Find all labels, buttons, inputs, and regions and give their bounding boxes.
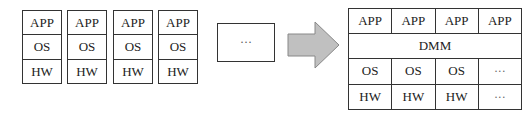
app-layer: APP <box>23 11 61 35</box>
hw-ellipsis-cell: ··· <box>479 85 521 110</box>
os-ellipsis-cell: ··· <box>479 59 521 83</box>
hw-cell: HW <box>392 85 435 110</box>
app-cell: APP <box>392 9 435 33</box>
hw-layer: HW <box>68 60 106 84</box>
more-machines-box: ··· <box>217 23 275 62</box>
app-cell: APP <box>349 9 392 33</box>
os-cell: OS <box>392 59 435 83</box>
app-cell: APP <box>479 9 521 33</box>
right-arrow-icon <box>287 21 340 69</box>
os-row: OS OS OS ··· <box>349 59 521 84</box>
app-layer: APP <box>159 11 197 35</box>
app-layer: APP <box>114 11 152 35</box>
dmm-cell: DMM <box>349 34 521 58</box>
machine-stack-3: APP OS HW <box>113 10 153 84</box>
os-cell: OS <box>349 59 392 83</box>
hw-cell: HW <box>436 85 479 110</box>
hw-layer: HW <box>114 60 152 84</box>
dmm-architecture-table: APP APP APP APP DMM OS OS OS ··· HW HW H… <box>348 8 522 110</box>
app-layer: APP <box>68 11 106 35</box>
ellipsis-label: ··· <box>240 35 252 50</box>
hw-row: HW HW HW ··· <box>349 85 521 110</box>
machine-stack-2: APP OS HW <box>67 10 107 84</box>
app-cell: APP <box>436 9 479 33</box>
hw-layer: HW <box>23 60 61 84</box>
os-layer: OS <box>159 35 197 59</box>
app-row: APP APP APP APP <box>349 9 521 34</box>
os-layer: OS <box>68 35 106 59</box>
machine-stack-4: APP OS HW <box>158 10 198 84</box>
os-cell: OS <box>436 59 479 83</box>
os-layer: OS <box>23 35 61 59</box>
hw-cell: HW <box>349 85 392 110</box>
dmm-row: DMM <box>349 34 521 59</box>
machine-stack-1: APP OS HW <box>22 10 62 84</box>
hw-layer: HW <box>159 60 197 84</box>
os-layer: OS <box>114 35 152 59</box>
